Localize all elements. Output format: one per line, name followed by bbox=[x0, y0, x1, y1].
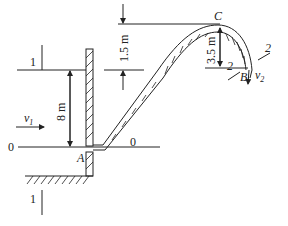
dimension-1-5m: 1.5 m bbox=[104, 4, 144, 90]
point-c-label: C bbox=[214, 9, 223, 23]
dimension-8m: 8 m bbox=[54, 71, 70, 146]
svg-text:0: 0 bbox=[8, 140, 14, 154]
svg-text:v2: v2 bbox=[255, 68, 264, 84]
dimension-3-5m-label: 3.5 m bbox=[204, 36, 218, 64]
svg-text:1: 1 bbox=[30, 55, 36, 69]
pipe-support-hatch bbox=[112, 33, 245, 140]
section-1-bottom-marker: 1 bbox=[30, 190, 42, 215]
dimension-1-5m-label: 1.5 m bbox=[117, 34, 131, 62]
svg-text:2: 2 bbox=[227, 59, 233, 73]
svg-text:v1: v1 bbox=[24, 111, 33, 127]
svg-text:0: 0 bbox=[130, 135, 136, 149]
velocity-v1: v1 bbox=[16, 111, 44, 127]
tank-bottom bbox=[25, 176, 93, 184]
tank-wall bbox=[86, 49, 93, 176]
svg-text:1: 1 bbox=[30, 192, 36, 206]
point-a-label: A bbox=[76, 151, 85, 165]
dimension-8m-label: 8 m bbox=[54, 102, 68, 121]
point-b-label: B bbox=[240, 70, 248, 84]
siphon-diagram: 1.5 m 1 8 m v1 0 0 bbox=[0, 0, 288, 226]
svg-text:2: 2 bbox=[265, 41, 271, 55]
section-1-top-marker: 1 bbox=[30, 45, 42, 70]
